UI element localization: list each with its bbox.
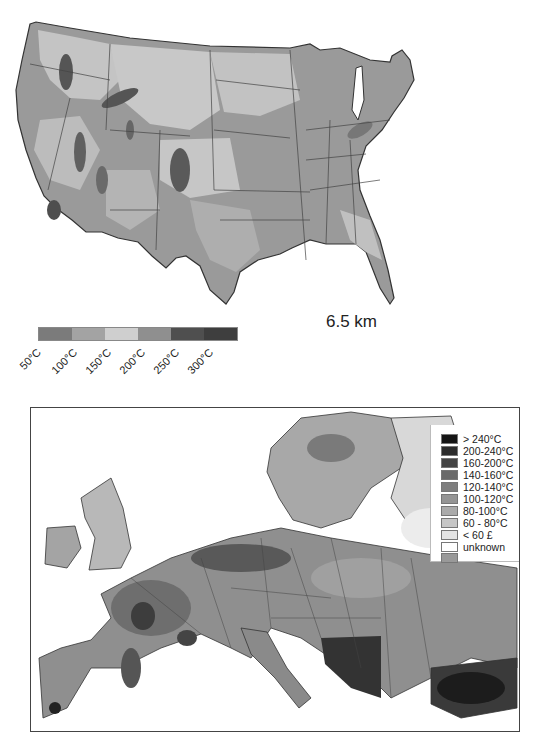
legend-item: < 60 £ [441,529,493,541]
legend-swatch [441,494,458,504]
legend-swatch [441,434,458,444]
legend-label: 80-100°C [463,505,507,517]
legend-label: 160-200°C [463,457,513,469]
us-colorbar [38,327,238,341]
legend-label: 120-140°C [463,481,513,493]
colorbar-swatch [105,328,138,340]
legend-item: 60 - 80°C [441,517,507,529]
legend-swatch [441,470,458,480]
colorbar-swatch [39,328,72,340]
colorbar-label: 150°C [83,346,113,376]
legend-item: 100-120°C [441,493,513,505]
colorbar-label: 200°C [117,346,147,376]
legend-label: unknown [463,541,505,553]
legend-item: 140-160°C [441,469,513,481]
legend-item: 200-240°C [441,445,513,457]
depth-label: 6.5 km [326,312,377,332]
colorbar-label: 300°C [185,346,215,376]
legend-label: > 240°C [463,433,501,445]
legend-swatch [441,542,458,552]
legend-label: 60 - 80°C [463,517,507,529]
legend-label: 200-240°C [463,445,513,457]
colorbar-swatch [204,328,237,340]
legend-swatch [441,458,458,468]
colorbar-swatch [138,328,171,340]
legend-item: 80-100°C [441,505,507,517]
europe-legend: > 240°C 200-240°C 160-200°C 140-160°C 12… [430,425,519,562]
colorbar-label: 250°C [151,346,181,376]
legend-swatch [441,518,458,528]
colorbar-label: 50°C [17,346,43,372]
colorbar-label: 100°C [49,346,79,376]
legend-swatch [441,553,458,563]
colorbar-swatch [171,328,204,340]
us-temperature-map [10,20,450,320]
legend-label: 100-120°C [463,493,513,505]
legend-swatch [441,530,458,540]
legend-item: 160-200°C [441,457,513,469]
legend-label: < 60 £ [463,529,493,541]
legend-swatch [441,482,458,492]
legend-swatch [441,446,458,456]
colorbar-swatch [72,328,105,340]
legend-label: 140-160°C [463,469,513,481]
legend-item: 120-140°C [441,481,513,493]
legend-item: > 240°C [441,433,501,445]
legend-item [441,552,463,564]
legend-swatch [441,506,458,516]
